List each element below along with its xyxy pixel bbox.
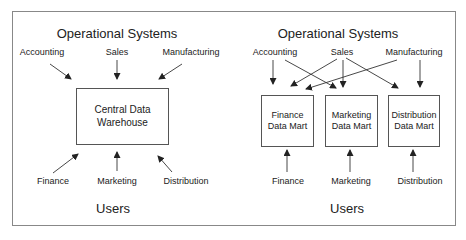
marketing-mart-line1: Marketing: [332, 110, 372, 121]
right-user-distribution: Distribution: [397, 177, 442, 186]
right-user-finance: Finance: [272, 177, 304, 186]
central-data-warehouse-box: Central Data Warehouse: [76, 88, 169, 145]
right-operational-systems-title: Operational Systems: [278, 27, 399, 40]
left-users-title: Users: [96, 202, 130, 215]
left-source-manufacturing: Manufacturing: [162, 48, 219, 57]
arrow-accounting-to-warehouse: [50, 64, 71, 79]
distribution-mart-line1: Distribution: [391, 110, 436, 121]
right-source-sales: Sales: [331, 48, 354, 57]
arrow-distribution-to-warehouse: [158, 156, 172, 172]
marketing-mart-line2: Data Mart: [332, 121, 372, 132]
finance-mart-line1: Finance: [271, 110, 303, 121]
left-user-distribution: Distribution: [163, 177, 208, 186]
left-source-sales: Sales: [106, 48, 129, 57]
right-users-title: Users: [330, 202, 364, 215]
warehouse-label-line2: Warehouse: [97, 117, 148, 130]
left-operational-systems-title: Operational Systems: [57, 27, 178, 40]
finance-data-mart-box: Finance Data Mart: [261, 95, 314, 147]
distribution-data-mart-box: Distribution Data Mart: [388, 95, 440, 147]
left-source-accounting: Accounting: [20, 48, 65, 57]
right-source-manufacturing: Manufacturing: [385, 48, 442, 57]
arrow-manufacturing-to-warehouse: [159, 64, 182, 79]
distribution-mart-line2: Data Mart: [394, 121, 434, 132]
right-source-accounting: Accounting: [253, 48, 298, 57]
arrow-finance-to-warehouse: [53, 154, 78, 173]
right-user-marketing: Marketing: [331, 177, 371, 186]
finance-mart-line2: Data Mart: [268, 121, 308, 132]
left-user-marketing: Marketing: [97, 177, 137, 186]
left-user-finance: Finance: [37, 177, 69, 186]
marketing-data-mart-box: Marketing Data Mart: [325, 95, 378, 147]
arrow-manufacturing-to-finance-mart: [306, 60, 397, 89]
arrow-sales-to-finance-mart: [291, 59, 337, 86]
warehouse-label-line1: Central Data: [94, 104, 150, 117]
